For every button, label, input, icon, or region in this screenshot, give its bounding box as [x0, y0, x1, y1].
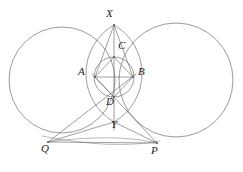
geometry-figure: X C A B D Y Q P — [0, 0, 243, 172]
large-circle-left — [9, 27, 115, 133]
point-label-y: Y — [111, 119, 117, 130]
segment-x-b — [114, 25, 133, 77]
figure-canvas — [0, 0, 243, 172]
segment-x-a — [95, 25, 114, 77]
segment-d-b — [114, 77, 133, 97]
point-label-p: P — [151, 145, 158, 156]
large-circle-right — [119, 23, 233, 137]
segment-a-c — [95, 57, 114, 77]
segment-p-through-d — [92, 74, 157, 143]
segment-q-through-d — [48, 74, 136, 142]
vertex-dot-b — [132, 76, 134, 78]
segment-q-p — [48, 142, 157, 143]
point-label-c: C — [118, 40, 125, 51]
vesica-arc-left — [86, 25, 114, 122]
point-label-q: Q — [41, 143, 49, 154]
vertex-dot-a — [94, 76, 96, 78]
segment-p-y — [114, 122, 157, 143]
segment-q-y — [48, 122, 114, 142]
point-label-d: D — [106, 96, 114, 107]
point-label-x: X — [106, 8, 113, 19]
vertex-dot-c — [113, 56, 115, 58]
vertex-dot-x — [113, 24, 115, 26]
point-label-b: B — [138, 66, 145, 77]
point-label-a: A — [78, 66, 85, 77]
segment-c-b — [114, 57, 133, 77]
